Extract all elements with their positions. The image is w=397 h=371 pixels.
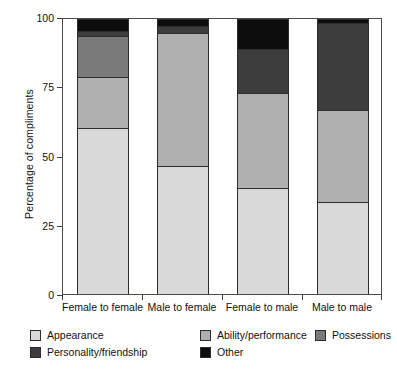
bar-segment	[157, 26, 209, 33]
x-axis: Female to femaleMale to femaleFemale to …	[62, 295, 382, 319]
bar-segment	[237, 93, 289, 188]
legend-item-personality-friendship: Personality/friendship	[30, 346, 147, 358]
bar-segment	[77, 128, 129, 294]
bar-segment	[157, 33, 209, 166]
x-tick-mark	[381, 295, 382, 300]
bar-segment	[157, 19, 209, 26]
legend-swatch	[315, 330, 326, 341]
x-tick-label: Male to female	[142, 301, 222, 313]
x-tick-mark	[62, 295, 63, 300]
legend-row: AppearanceAbility/performancePossessions	[30, 329, 380, 344]
x-tick-label: Male to male	[302, 301, 382, 313]
chart-legend: AppearanceAbility/performancePossessions…	[30, 329, 380, 365]
y-tick-label: 25	[28, 221, 54, 231]
y-axis: 0255075100	[28, 18, 62, 295]
legend-swatch	[30, 347, 41, 358]
y-tick-label: 50	[28, 152, 54, 162]
x-tick-label: Female to male	[222, 301, 302, 313]
bar-segment	[77, 19, 129, 31]
bar-segment	[317, 23, 369, 110]
bar-segment	[77, 36, 129, 77]
legend-row: Personality/friendshipOther	[30, 346, 380, 361]
legend-label: Other	[217, 346, 243, 358]
y-tick-label: 100	[28, 13, 54, 23]
legend-item-other: Other	[200, 346, 243, 358]
bar-segment	[237, 188, 289, 294]
bar-segment	[157, 166, 209, 294]
x-tick-mark	[222, 295, 223, 300]
legend-label: Possessions	[332, 329, 391, 341]
bar-segment	[237, 49, 289, 93]
bar-male-to-male	[317, 19, 369, 294]
bar-female-to-male	[237, 19, 289, 294]
bar-segment	[317, 110, 369, 202]
bar-male-to-female	[157, 19, 209, 294]
y-tick-label: 75	[28, 82, 54, 92]
x-tick-mark	[302, 295, 303, 300]
bar-female-to-female	[77, 19, 129, 294]
legend-swatch	[30, 330, 41, 341]
legend-label: Ability/performance	[217, 329, 307, 341]
bar-segment	[317, 202, 369, 294]
legend-item-appearance: Appearance	[30, 329, 104, 341]
legend-label: Personality/friendship	[47, 346, 147, 358]
stacked-bar-chart: Percentage of compliments 0255075100 Fem…	[0, 0, 397, 371]
bar-segment	[77, 77, 129, 128]
x-tick-label: Female to female	[62, 301, 142, 313]
plot-area	[62, 18, 382, 295]
legend-item-ability-performance: Ability/performance	[200, 329, 307, 341]
legend-label: Appearance	[47, 329, 104, 341]
legend-item-possessions: Possessions	[315, 329, 391, 341]
legend-swatch	[200, 347, 211, 358]
x-tick-mark	[142, 295, 143, 300]
bar-segment	[237, 19, 289, 49]
legend-swatch	[200, 330, 211, 341]
y-tick-label: 0	[28, 290, 54, 300]
